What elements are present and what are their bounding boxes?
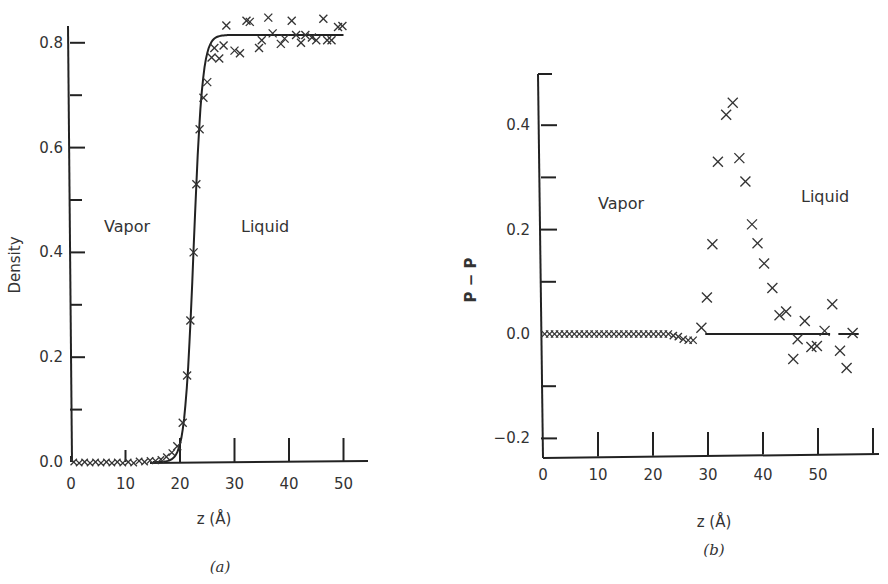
chart-b-data-point	[759, 259, 769, 269]
chart-b-y-tick-label: 0.0	[506, 325, 530, 343]
chart-a-data-point	[220, 41, 228, 49]
chart-a-data-point	[203, 78, 211, 86]
chart-b-caption: (b)	[703, 541, 724, 559]
chart-b-x-tick-label: 50	[808, 466, 827, 484]
chart-b-data-point	[702, 292, 712, 302]
chart-b-data-point	[753, 238, 763, 248]
chart-a-y-tick-label: 0.8	[39, 34, 63, 52]
chart-b-data-point	[747, 219, 757, 229]
chart-b-x-tick-label: 30	[698, 466, 717, 484]
chart-a-data-point	[141, 459, 147, 465]
figure: 0.00.20.40.60.801020304050 Density z (Å)…	[0, 0, 888, 584]
chart-a-axes	[68, 26, 368, 463]
chart-a-x-axis	[150, 461, 368, 463]
chart-a-data-point	[210, 44, 218, 52]
chart-a-y-tick-label: 0.6	[39, 139, 63, 157]
chart-b-data-point	[690, 337, 697, 344]
chart-a-data-point	[264, 14, 272, 22]
chart-a-data-point	[98, 460, 104, 466]
chart-a-data-point	[208, 53, 216, 61]
chart-a-data-point	[92, 459, 98, 465]
chart-a-data-point	[288, 17, 296, 25]
chart-a-fit-curve	[153, 35, 344, 462]
chart-a-data-point	[103, 459, 109, 465]
chart-b-x-axis	[543, 454, 879, 458]
chart-a-x-tick-label: 0	[66, 475, 76, 493]
chart-a-data-point	[277, 40, 285, 48]
chart-a-data-point	[215, 55, 223, 63]
chart-a-x-tick-label: 30	[225, 475, 244, 493]
chart-b-data-point	[842, 363, 852, 373]
chart-a-y-axis	[68, 26, 72, 462]
chart-b-data-point	[721, 110, 731, 120]
chart-a-y-tick-label: 0.2	[39, 348, 63, 366]
chart-a-data-point	[109, 460, 115, 466]
chart-b-vapor-label: Vapor	[598, 194, 644, 213]
chart-a-x-axis-label: z (Å)	[197, 509, 232, 528]
chart-a-data-point	[312, 36, 320, 44]
chart-a-y-axis-label: Density	[6, 236, 24, 293]
chart-a-ticks: 0.00.20.40.60.801020304050	[39, 34, 353, 493]
chart-b-data-point	[800, 316, 810, 326]
chart-a-x-tick-label: 20	[170, 475, 189, 493]
chart-b-data-point	[734, 153, 744, 163]
chart-a-data-point	[130, 460, 136, 466]
chart-b-ticks: −0.20.00.20.401020304050	[494, 116, 873, 484]
chart-a-data-point	[319, 15, 327, 23]
chart-b-y-axis-label: P − P	[462, 257, 480, 302]
chart-a-x-tick-label: 10	[116, 475, 135, 493]
chart-a-data-point	[136, 458, 142, 464]
chart-a-data-point	[297, 39, 305, 47]
chart-a-data-point	[255, 44, 263, 52]
chart-b-x-axis-label: z (Å)	[697, 512, 732, 531]
chart-a-data-point	[87, 460, 93, 466]
chart-b-x-tick-label: 10	[588, 466, 607, 484]
chart-b-data-point	[812, 341, 822, 351]
chart-b-y-tick-label: 0.4	[506, 116, 530, 134]
chart-b-y-tick-label: −0.2	[494, 429, 530, 447]
chart-b-data-point	[793, 334, 803, 344]
chart-a-data-point	[81, 459, 87, 465]
chart-b-x-tick-label: 20	[643, 466, 662, 484]
chart-a-data-points	[71, 14, 347, 467]
chart-a-caption: (a)	[210, 558, 231, 576]
chart-b-x-tick-label: 0	[538, 466, 548, 484]
chart-b-data-point	[707, 239, 717, 249]
chart-b-data-point	[848, 328, 858, 338]
chart-a-data-point	[114, 459, 120, 465]
chart-a-data-point	[120, 460, 126, 466]
chart-a-y-tick-label: 0.0	[39, 453, 63, 471]
chart-a-x-tick-label: 50	[334, 475, 353, 493]
chart-b-x-tick-label: 40	[753, 466, 772, 484]
chart-a-data-point	[323, 36, 331, 44]
chart-b-axes	[538, 74, 879, 458]
chart-b-data-point	[728, 98, 738, 108]
chart-b-data-point	[740, 177, 750, 187]
chart-a-x-tick-label: 40	[279, 475, 298, 493]
chart-a-data-point	[328, 36, 336, 44]
chart-a-data-point	[76, 460, 82, 466]
chart-b-y-axis	[538, 74, 543, 458]
chart-b-data-point	[713, 157, 723, 167]
chart-a-vapor-label: Vapor	[104, 217, 150, 236]
chart-b-data-point	[767, 283, 777, 293]
chart-a-liquid-label: Liquid	[241, 217, 289, 236]
chart-b-data-point	[696, 323, 706, 333]
chart-b-data-point	[827, 299, 837, 309]
chart-b: −0.20.00.20.401020304050 P − P z (Å) (b)…	[462, 74, 879, 559]
chart-a-y-tick-label: 0.4	[39, 243, 63, 261]
chart-a-data-point	[269, 29, 277, 37]
chart-b-data-point	[835, 346, 845, 356]
chart-a: 0.00.20.40.60.801020304050 Density z (Å)…	[6, 14, 368, 576]
chart-a-data-point	[222, 22, 230, 30]
chart-b-data-point	[788, 354, 798, 364]
chart-b-liquid-label: Liquid	[801, 187, 849, 206]
chart-b-data-points	[541, 98, 858, 373]
chart-b-y-tick-label: 0.2	[506, 221, 530, 239]
chart-a-data-point	[258, 36, 266, 44]
